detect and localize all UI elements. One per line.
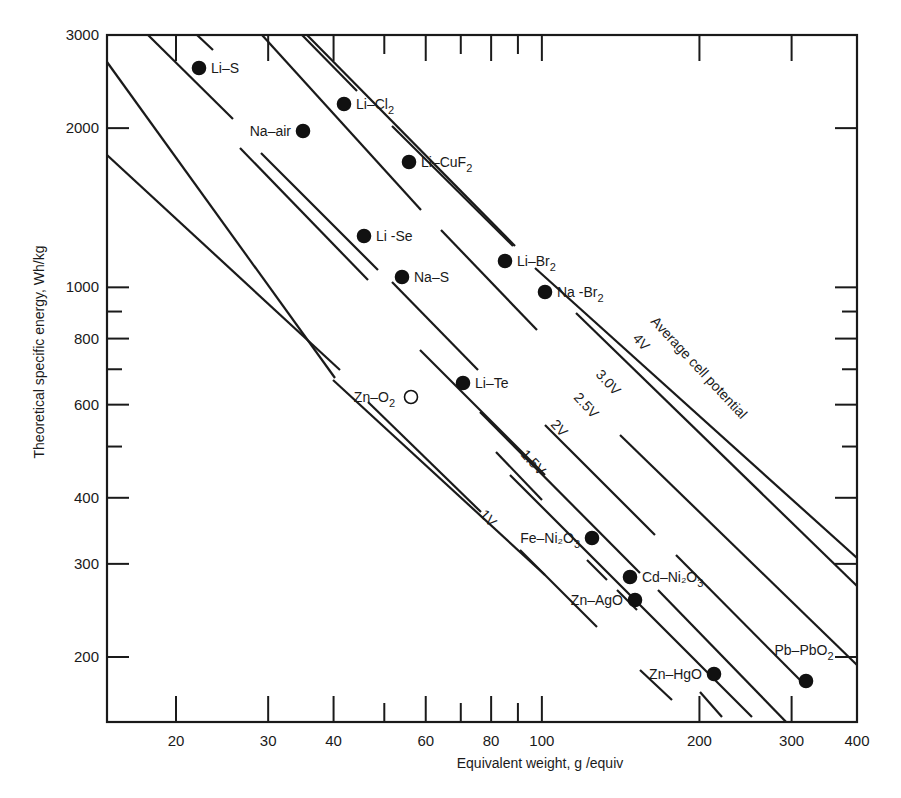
potential-line bbox=[576, 313, 857, 586]
potential-label: 2V bbox=[548, 416, 572, 440]
y-tick-label: 1000 bbox=[66, 278, 99, 295]
point-label: Fe–Ni₂O3 bbox=[520, 530, 580, 550]
potential-label: 1V bbox=[477, 506, 501, 530]
data-point-li-te bbox=[457, 377, 470, 390]
data-point-li-s bbox=[193, 62, 206, 75]
potential-line bbox=[545, 425, 655, 535]
x-tick-label: 300 bbox=[779, 732, 804, 749]
point-label: Pb–PbO2 bbox=[774, 642, 833, 662]
x-tick-label: 200 bbox=[687, 732, 712, 749]
potential-line bbox=[148, 35, 233, 119]
potential-labels: 1V1.5V2V2.5V3.0V4V bbox=[477, 330, 654, 530]
potential-line bbox=[441, 230, 537, 330]
y-axis-title: Theoretical specific energy, Wh/kg bbox=[31, 246, 47, 459]
potential-label: 3.0V bbox=[593, 366, 625, 398]
y-tick-label: 200 bbox=[74, 648, 99, 665]
x-tick-label: 20 bbox=[168, 732, 185, 749]
x-tick-label: 100 bbox=[529, 732, 554, 749]
data-point-cd-ni2o3 bbox=[624, 571, 637, 584]
x-axis-title: Equivalent weight, g /equiv bbox=[457, 755, 624, 771]
data-point-na-s bbox=[396, 271, 409, 284]
data-point-li-cl2 bbox=[338, 98, 351, 111]
y-tick-label: 600 bbox=[74, 396, 99, 413]
potential-line bbox=[392, 282, 478, 370]
data-point-zn-hgo bbox=[708, 668, 721, 681]
data-point-li-se bbox=[358, 230, 371, 243]
data-point-na-br2 bbox=[539, 286, 552, 299]
point-label: Li–Te bbox=[475, 375, 509, 391]
x-tick-label: 80 bbox=[483, 732, 500, 749]
potential-line bbox=[197, 35, 213, 50]
x-tick-label: 30 bbox=[260, 732, 277, 749]
point-label: Li–CuF2 bbox=[421, 154, 472, 174]
potential-label: 2.5V bbox=[571, 389, 603, 421]
potential-line bbox=[261, 153, 378, 270]
data-points: Li–SLi–Cl2Na–airLi–CuF2Li -SeLi–Br2Na–SN… bbox=[193, 60, 834, 688]
data-point-pb-pbo2 bbox=[800, 675, 813, 688]
y-tick-label: 400 bbox=[74, 489, 99, 506]
point-label: Na–air bbox=[250, 123, 292, 139]
x-tick-label: 40 bbox=[325, 732, 342, 749]
potential-line bbox=[240, 148, 368, 280]
potential-line bbox=[302, 35, 357, 91]
potential-line bbox=[520, 550, 597, 627]
point-label: Zn–AgO bbox=[571, 592, 623, 608]
data-point-zn-o2 bbox=[405, 391, 418, 404]
x-tick-label: 400 bbox=[844, 732, 869, 749]
point-label: Na -Br2 bbox=[557, 284, 604, 304]
data-point-zn-ago bbox=[629, 594, 642, 607]
potential-line bbox=[700, 692, 722, 717]
data-point-li-br2 bbox=[499, 255, 512, 268]
point-label: Na–S bbox=[414, 269, 449, 285]
point-label: Li–Cl2 bbox=[356, 96, 394, 116]
y-tick-label: 800 bbox=[74, 330, 99, 347]
potential-line bbox=[658, 590, 857, 795]
x-tick-label: 60 bbox=[417, 732, 434, 749]
potential-line bbox=[107, 155, 340, 370]
potential-label: 4V bbox=[630, 330, 654, 354]
average-cell-potential-annotation: Average cell potential bbox=[648, 313, 751, 422]
data-point-li-cuf2 bbox=[403, 156, 416, 169]
y-tick-label: 300 bbox=[74, 555, 99, 572]
point-label: Cd–Ni₂O3 bbox=[642, 569, 703, 589]
point-label: Li–S bbox=[211, 60, 239, 76]
point-label: Zn–HgO bbox=[649, 666, 702, 682]
point-label: Li -Se bbox=[376, 228, 413, 244]
energy-vs-equivalent-weight-chart: 2030406080100200300400200300400600800100… bbox=[0, 0, 901, 798]
y-tick-label: 3000 bbox=[66, 26, 99, 43]
y-tick-label: 2000 bbox=[66, 119, 99, 136]
potential-line bbox=[107, 62, 335, 378]
potential-line bbox=[307, 35, 515, 246]
data-point-na-air bbox=[297, 125, 310, 138]
data-point-fe-ni2o3 bbox=[586, 532, 599, 545]
potential-line bbox=[368, 402, 481, 512]
